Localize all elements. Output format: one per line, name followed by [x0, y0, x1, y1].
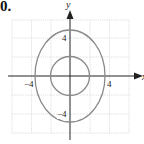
- graph: [0, 0, 144, 144]
- tick-label-x-neg4: −4: [24, 80, 34, 89]
- tick-label-y-neg4: −4: [57, 110, 67, 119]
- tick-label-y-4: 4: [62, 34, 67, 43]
- y-axis-arrow-icon: [67, 10, 74, 19]
- y-axis-label: y: [66, 0, 70, 10]
- x-axis-label: x: [142, 72, 144, 82]
- tick-label-x-4: 4: [107, 80, 112, 89]
- axes: [8, 14, 138, 140]
